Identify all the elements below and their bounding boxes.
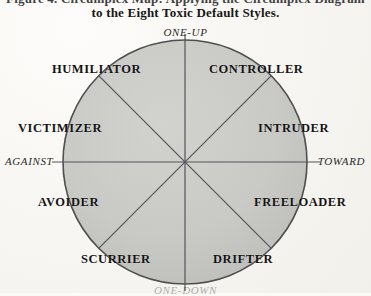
sector-label-scurrier: SCURRIER <box>81 252 151 267</box>
sector-label-victimizer: VICTIMIZER <box>18 121 102 136</box>
axis-label-one-up: ONE-UP <box>0 26 371 38</box>
axis-label-one-down: ONE-DOWN <box>0 284 371 296</box>
axis-label-toward: TOWARD <box>318 155 365 167</box>
sector-label-controller: CONTROLLER <box>209 62 303 77</box>
axis-label-against: AGAINST <box>5 155 53 167</box>
sector-label-humiliator: HUMILIATOR <box>52 62 141 77</box>
sector-label-intruder: INTRUDER <box>258 121 329 136</box>
sector-label-avoider: AVOIDER <box>38 195 99 210</box>
sector-label-freeloader: FREELOADER <box>254 195 346 210</box>
sector-label-drifter: DRIFTER <box>213 252 273 267</box>
